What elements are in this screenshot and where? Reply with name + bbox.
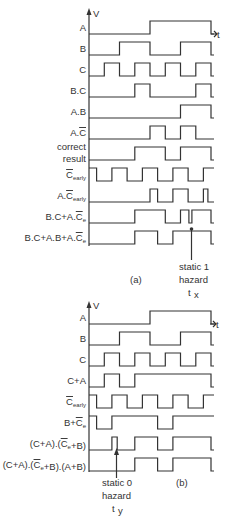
waveform-b-0 bbox=[89, 311, 214, 324]
waveform-a-1 bbox=[89, 42, 214, 55]
row-label-a-8: A.Cearly bbox=[57, 190, 86, 202]
row-label-a-9: B.C+A.Ce bbox=[45, 211, 86, 223]
hazard-arrow-icon bbox=[114, 448, 119, 455]
waveform-b-4 bbox=[89, 395, 214, 408]
row-label-a-5: A.C bbox=[70, 127, 86, 138]
waveform-a-6 bbox=[89, 147, 214, 160]
row-label-b-0: A bbox=[80, 312, 87, 323]
waveform-a-5 bbox=[89, 126, 214, 139]
row-label-b-3: C+A bbox=[67, 375, 86, 386]
panel-b-labels: ABCC+ACearlyB+Ce(C+A).(Ce+B)(C+A).(Ce+B)… bbox=[3, 312, 87, 472]
panel-a-labels: ABCB.CA.BA.CcorrectresultCearlyA.CearlyB… bbox=[25, 22, 87, 244]
row-label-a-7: Cearly bbox=[66, 169, 86, 181]
hazard-b-line2: hazard bbox=[102, 490, 131, 501]
hazard-b-line4: y bbox=[118, 505, 123, 516]
panel-a-caption: (a) bbox=[130, 274, 142, 285]
hazard-a-line4: x bbox=[194, 289, 199, 300]
v-axis-arrow-b-icon bbox=[87, 301, 92, 308]
v-axis-arrow-icon bbox=[87, 8, 92, 15]
waveform-b-2 bbox=[89, 353, 214, 366]
panel-b-waveforms bbox=[89, 311, 214, 471]
row-label-b-6: (C+A).(Ce+B) bbox=[30, 438, 86, 451]
hazard-b-line1: static 0 bbox=[102, 477, 132, 488]
waveform-a-9 bbox=[89, 210, 214, 223]
hazard-b-line3: t bbox=[112, 503, 115, 514]
waveform-a-7 bbox=[89, 168, 214, 181]
waveform-b-5 bbox=[89, 416, 214, 429]
row-label-b-2: C bbox=[79, 354, 86, 365]
panel-b: V ABCC+ACearlyB+Ce(C+A).(Ce+B)(C+A).(Ce+… bbox=[3, 300, 219, 516]
waveform-a-10 bbox=[89, 231, 214, 244]
waveform-b-1 bbox=[89, 332, 214, 345]
row-label-a-10: B.C+A.B+A.Ce bbox=[25, 232, 87, 244]
panel-a-waveforms bbox=[89, 21, 214, 244]
hazard-dot-icon bbox=[190, 227, 194, 231]
waveform-b-7 bbox=[89, 458, 214, 471]
row-label-a-6: correctresult bbox=[57, 141, 86, 164]
hazard-a-line2: hazard bbox=[179, 274, 208, 285]
waveform-a-3 bbox=[89, 84, 214, 97]
t-axis-label: t bbox=[217, 29, 220, 40]
waveform-a-4 bbox=[89, 105, 214, 118]
t-axis-label-b: t bbox=[216, 319, 219, 330]
panel-b-caption: (b) bbox=[176, 477, 188, 488]
v-axis-label-b: V bbox=[93, 300, 100, 311]
waveform-b-6 bbox=[89, 437, 214, 450]
panel-a: V ABCB.CA.BA.CcorrectresultCearlyA.Cearl… bbox=[25, 8, 220, 300]
row-label-a-4: A.B bbox=[71, 106, 86, 117]
row-label-a-1: B bbox=[80, 43, 86, 54]
v-axis-label: V bbox=[93, 8, 100, 19]
row-label-b-1: B bbox=[80, 333, 86, 344]
row-label-a-3: B.C bbox=[70, 85, 86, 96]
hazard-a-line1: static 1 bbox=[179, 261, 209, 272]
row-label-b-4: Cearly bbox=[66, 396, 86, 408]
timing-diagram: V ABCB.CA.BA.CcorrectresultCearlyA.Cearl… bbox=[0, 0, 232, 518]
waveform-a-8 bbox=[89, 189, 214, 202]
waveform-a-0 bbox=[89, 21, 214, 34]
waveform-a-2 bbox=[89, 63, 214, 76]
row-label-b-5: B+Ce bbox=[64, 417, 87, 429]
row-label-b-7: (C+A).(Ce+B).(A+B) bbox=[3, 459, 86, 472]
hazard-a-line3: t bbox=[188, 287, 191, 298]
waveform-b-3 bbox=[89, 374, 214, 387]
row-label-a-0: A bbox=[80, 22, 87, 33]
row-label-a-2: C bbox=[79, 64, 86, 75]
